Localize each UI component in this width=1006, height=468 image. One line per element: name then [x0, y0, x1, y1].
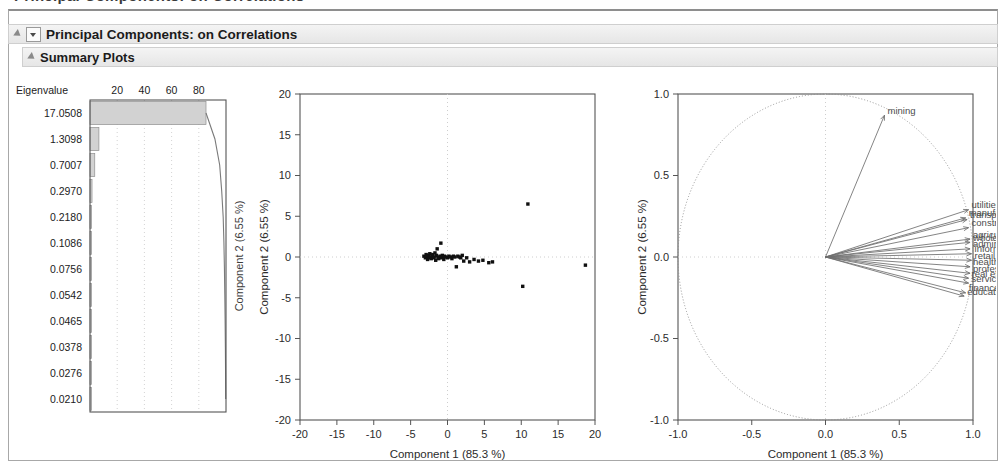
eigenvalue-label: 0.0542	[50, 289, 82, 301]
score-xtick-label: -15	[329, 428, 345, 440]
score-data-point	[521, 285, 524, 288]
score-ytick-label: 15	[279, 129, 291, 141]
score-data-point	[461, 254, 464, 257]
loading-xtick-label: 1.0	[965, 428, 980, 440]
scree-panel: Eigenvalue2040608017.05081.30980.70070.2…	[16, 84, 245, 412]
score-data-point	[465, 256, 468, 259]
score-xtick-label: 20	[589, 428, 601, 440]
loading-ytick-label: 1.0	[654, 88, 669, 100]
disclosure-triangle-icon[interactable]	[13, 29, 23, 39]
section-header-primary-label: Principal Components: on Correlations	[46, 27, 297, 42]
score-ytick-label: 0	[285, 251, 291, 263]
scree-column-header: Eigenvalue	[16, 84, 68, 96]
eigenvalue-label: 0.1086	[50, 237, 82, 249]
scree-bar	[90, 128, 99, 151]
loading-xtick-label: -1.0	[669, 428, 688, 440]
eigenvalue-label: 17.0508	[44, 107, 82, 119]
section-header-principal-components[interactable]: Principal Components: on Correlations	[8, 24, 998, 44]
loading-xtick-label: 0.0	[818, 428, 833, 440]
eigenvalue-label: 1.3098	[50, 133, 82, 145]
loading-ytick-label: 0.0	[654, 251, 669, 263]
loading-plot: -1.0-0.50.00.51.0-1.0-0.50.00.51.0mining…	[636, 88, 996, 460]
score-xtick-label: -5	[406, 428, 416, 440]
window-title-clipped: Principal Components: on Correlations	[0, 0, 1006, 9]
eigenvalue-label: 0.0756	[50, 263, 82, 275]
score-data-point	[435, 247, 438, 250]
score-ytick-label: 10	[279, 169, 291, 181]
score-data-point	[468, 260, 471, 263]
loading-vector-label: finance	[969, 282, 996, 293]
chevron-down-icon[interactable]	[26, 27, 41, 42]
scree-pct-tick: 60	[166, 84, 178, 96]
disclosure-triangle-icon[interactable]	[27, 52, 37, 62]
score-data-point	[439, 241, 442, 244]
score-ytick-label: -10	[275, 332, 291, 344]
score-data-point	[526, 202, 529, 205]
score-data-point	[472, 258, 475, 261]
score-data-point	[491, 260, 494, 263]
pca-summary-plots-window: Principal Components: on Correlations Pr…	[0, 0, 1006, 468]
loading-xtick-label: 0.5	[892, 428, 907, 440]
section-header-summary-plots[interactable]: Summary Plots	[22, 47, 998, 67]
score-data-point	[584, 263, 587, 266]
eigenvalue-label: 0.0276	[50, 367, 82, 379]
score-xaxis-label: Component 1 (85.3 %)	[390, 448, 506, 460]
score-plot: -20-15-10-505101520-20-15-10-505101520Co…	[258, 88, 601, 460]
scree-side-label: Component 2 (6.55 %)	[233, 201, 245, 312]
eigenvalue-label: 0.7007	[50, 159, 82, 171]
loading-yaxis-label: Component 2 (6.55 %)	[636, 199, 648, 315]
score-data-point	[453, 255, 456, 258]
loading-xaxis-label: Component 1 (85.3 %)	[768, 448, 884, 460]
score-data-point	[481, 259, 484, 262]
section-header-secondary-label: Summary Plots	[40, 50, 135, 65]
loading-ytick-label: -0.5	[650, 332, 669, 344]
score-ytick-label: 20	[279, 88, 291, 100]
scree-pct-tick: 40	[139, 84, 151, 96]
score-xtick-label: 10	[515, 428, 527, 440]
score-yaxis-label: Component 2 (6.55 %)	[258, 199, 270, 315]
score-data-point	[434, 259, 437, 262]
scree-pct-tick: 80	[193, 84, 205, 96]
eigenvalue-label: 0.2180	[50, 211, 82, 223]
loading-vector-label: mining	[888, 105, 916, 116]
score-xtick-label: -10	[366, 428, 382, 440]
score-xtick-label: 15	[552, 428, 564, 440]
loading-ytick-label: -1.0	[650, 414, 669, 426]
loading-ytick-label: 0.5	[654, 169, 669, 181]
score-xtick-label: 0	[444, 428, 450, 440]
score-xtick-label: -20	[292, 428, 308, 440]
eigenvalue-label: 0.0378	[50, 341, 82, 353]
score-xtick-label: 5	[481, 428, 487, 440]
score-ytick-label: -20	[275, 414, 291, 426]
score-ytick-label: -15	[275, 373, 291, 385]
score-ytick-label: 5	[285, 210, 291, 222]
scree-pct-tick: 20	[111, 84, 123, 96]
plots-row: Eigenvalue2040608017.05081.30980.70070.2…	[10, 72, 996, 460]
score-data-point	[477, 259, 480, 262]
score-ytick-label: -5	[281, 292, 291, 304]
eigenvalue-label: 0.2970	[50, 185, 82, 197]
scree-bar	[90, 154, 95, 177]
scree-bar	[90, 102, 206, 125]
summary-plots-svg: Eigenvalue2040608017.05081.30980.70070.2…	[10, 72, 996, 460]
eigenvalue-label: 0.0210	[50, 393, 82, 405]
eigenvalue-label: 0.0465	[50, 315, 82, 327]
cumulative-variance-curve	[206, 113, 226, 399]
score-data-point	[462, 259, 465, 262]
score-data-point	[455, 265, 458, 268]
scree-plot-frame	[90, 100, 226, 412]
score-data-point	[487, 261, 490, 264]
loading-vector-label: construction	[972, 217, 996, 228]
loading-xtick-label: -0.5	[742, 428, 761, 440]
